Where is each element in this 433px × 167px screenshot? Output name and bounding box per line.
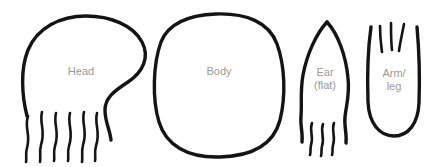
head-fringe-group (26, 112, 98, 162)
arm-leg-fringe-stroke (380, 26, 382, 52)
head-fringe-stroke (82, 112, 85, 162)
shape-ear: Ear (flat) (301, 22, 349, 156)
arm-leg-fringe-stroke (391, 23, 392, 50)
head-fringe-stroke (54, 113, 57, 161)
head-fringe-stroke (40, 112, 43, 162)
body-label: Body (206, 65, 232, 77)
head-fringe-stroke (68, 113, 71, 161)
shape-diagram-canvas: Head Body Ear (flat) (0, 0, 433, 167)
head-fringe-stroke (26, 116, 28, 162)
arm-leg-label-line2: leg (387, 80, 402, 92)
ear-label-line2: (flat) (314, 79, 336, 91)
shape-head: Head (23, 16, 146, 162)
shape-arm-leg: Arm/ leg (368, 23, 420, 136)
ear-fringe-stroke (310, 123, 312, 155)
shape-body: Body (154, 14, 284, 157)
ear-fringe-group (310, 123, 334, 156)
arm-leg-fringe-group (380, 23, 404, 52)
ear-label-line1: Ear (316, 66, 333, 78)
shapes-svg: Head Body Ear (flat) (0, 0, 433, 167)
ear-fringe-stroke (332, 123, 334, 155)
arm-leg-fringe-stroke (399, 24, 404, 51)
ear-fringe-stroke (321, 124, 323, 156)
head-label: Head (68, 65, 94, 77)
head-fringe-stroke (95, 113, 98, 161)
body-outline (154, 14, 284, 157)
arm-leg-label-line1: Arm/ (382, 67, 406, 79)
